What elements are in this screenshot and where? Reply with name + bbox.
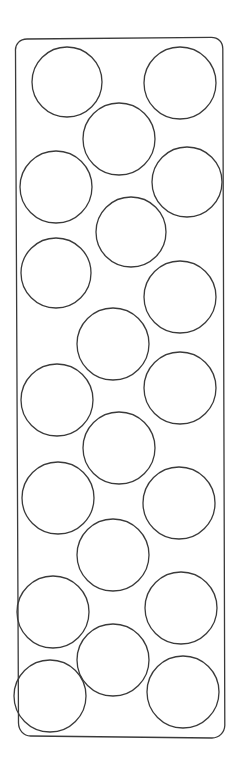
figure-root: Rounded rectangular tray outline with ci… (0, 0, 237, 778)
circle-pattern-diagram (0, 0, 237, 778)
